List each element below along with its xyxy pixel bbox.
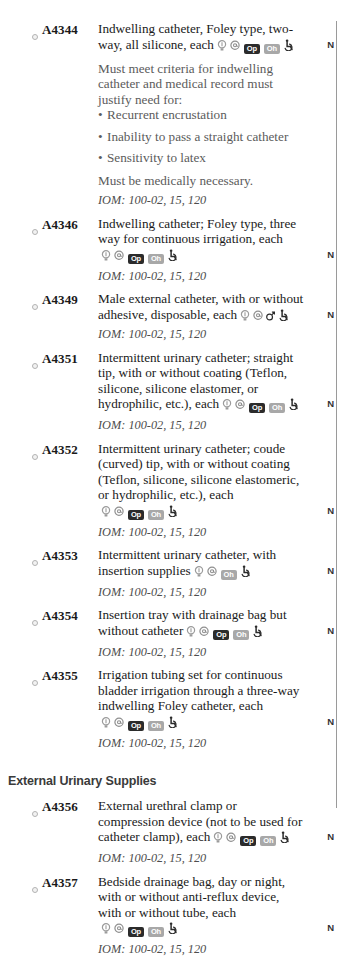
iom-reference[interactable]: IOM: 100-02, 15, 120	[98, 418, 304, 434]
code-description: Male external catheter, with or without …	[98, 291, 304, 322]
code-entry-header: A4346Indwelling catheter; Foley type, th…	[28, 216, 336, 285]
code-note: Must be medically necessary.	[98, 173, 304, 189]
hcpcs-code[interactable]: A4349	[42, 291, 98, 308]
at-sign-icon	[199, 626, 209, 637]
code-description-text: Indwelling catheter; Foley type, three w…	[98, 216, 296, 247]
at-sign-icon	[230, 40, 240, 51]
code-entry[interactable]: A4352Intermittent urinary catheter; coud…	[0, 441, 336, 541]
bulb-icon	[101, 250, 111, 261]
code-description: Bedside drainage bag, day or night, with…	[98, 874, 304, 938]
code-description: Irrigation tubing set for continuous bla…	[98, 667, 304, 731]
wheelchair-accessibility-icon	[252, 625, 263, 637]
code-entry[interactable]: A4353Intermittent urinary catheter, with…	[0, 547, 336, 600]
code-entry[interactable]: A4349Male external catheter, with or wit…	[0, 291, 336, 343]
op-badge-icon: Op	[128, 927, 144, 937]
code-entry-header: A4352Intermittent urinary catheter; coud…	[28, 441, 336, 541]
code-entry-header: A4355Irrigation tubing set for continuou…	[28, 667, 336, 751]
code-entry-body: Indwelling catheter, Foley type, two-way…	[98, 21, 336, 209]
coverage-icon-group: OpOh	[219, 396, 299, 411]
coverage-icon-group: Oh	[191, 563, 251, 578]
code-entry-body: External urethral clamp or compression d…	[98, 798, 336, 867]
code-description: Indwelling catheter, Foley type, two-way…	[98, 21, 304, 54]
code-entry[interactable]: A4344Indwelling catheter, Foley type, tw…	[0, 21, 336, 209]
code-description: Intermittent urinary catheter; straight …	[98, 350, 304, 414]
oh-badge-icon: Oh	[148, 510, 164, 520]
entry-marker-icon	[28, 667, 42, 690]
bulb-icon	[186, 626, 196, 637]
code-description: Intermittent urinary catheter; coude (cu…	[98, 441, 304, 520]
iom-reference[interactable]: IOM: 100-02, 15, 120	[98, 193, 304, 209]
entry-marker-icon	[28, 21, 42, 44]
hcpcs-code[interactable]: A4357	[42, 874, 98, 891]
op-badge-icon: Op	[240, 836, 256, 846]
code-entry[interactable]: A4354Insertion tray with drainage bag bu…	[0, 607, 336, 660]
iom-reference[interactable]: IOM: 100-02, 15, 120	[98, 736, 304, 752]
wheelchair-accessibility-icon	[240, 565, 251, 577]
wheelchair-accessibility-icon	[279, 831, 290, 843]
op-badge-icon: Op	[244, 44, 260, 54]
at-sign-icon	[114, 506, 124, 517]
iom-reference[interactable]: IOM: 100-02, 15, 120	[98, 942, 304, 958]
entry-marker-icon	[28, 874, 42, 897]
iom-reference[interactable]: IOM: 100-02, 15, 120	[98, 327, 304, 343]
hcpcs-code[interactable]: A4344	[42, 21, 98, 38]
criteria-list-item: Inability to pass a straight catheter	[98, 129, 304, 145]
hcpcs-code[interactable]: A4346	[42, 216, 98, 233]
iom-reference[interactable]: IOM: 100-02, 15, 120	[98, 645, 304, 661]
bulb-icon	[213, 832, 223, 843]
code-description-text: Bedside drainage bag, day or night, with…	[98, 874, 285, 920]
hcpcs-code[interactable]: A4354	[42, 607, 98, 624]
code-entry-body: Intermittent urinary catheter, with inse…	[98, 547, 336, 600]
op-badge-icon: Op	[128, 510, 144, 520]
iom-reference[interactable]: IOM: 100-02, 15, 120	[98, 851, 304, 867]
code-entry-body: Indwelling catheter; Foley type, three w…	[98, 216, 336, 285]
entry-marker-icon	[28, 350, 42, 373]
code-entry-body: Insertion tray with drainage bag but wit…	[98, 607, 336, 660]
wheelchair-accessibility-icon	[278, 309, 289, 321]
coverage-flag-letter: N	[327, 714, 334, 730]
entry-marker-icon	[28, 607, 42, 630]
wheelchair-accessibility-icon	[167, 922, 178, 934]
hcpcs-code[interactable]: A4356	[42, 798, 98, 815]
at-sign-icon	[235, 399, 245, 410]
coverage-flag-letter: N	[327, 563, 334, 579]
coverage-icon-group: OpOh	[210, 829, 290, 844]
coverage-icon-group: OpOh	[183, 623, 263, 638]
oh-badge-icon: Oh	[148, 721, 164, 731]
hcpcs-code[interactable]: A4351	[42, 350, 98, 367]
coverage-flag-letter: N	[327, 396, 334, 412]
wheelchair-accessibility-icon	[167, 505, 178, 517]
criteria-list-item: Sensitivity to latex	[98, 150, 304, 166]
hcpcs-code-list-page: A4344Indwelling catheter, Foley type, tw…	[0, 0, 336, 808]
coverage-flag-letter: N	[327, 623, 334, 639]
coverage-icon-group: OpOh	[98, 247, 178, 262]
wheelchair-accessibility-icon	[283, 39, 294, 51]
iom-reference[interactable]: IOM: 100-02, 15, 120	[98, 585, 304, 601]
bulb-icon	[194, 566, 204, 577]
code-description-text: Intermittent urinary catheter; coude (cu…	[98, 441, 299, 503]
code-entry[interactable]: A4355Irrigation tubing set for continuou…	[0, 667, 336, 751]
bulb-icon	[240, 310, 250, 321]
code-note: Must meet criteria for indwelling cathet…	[98, 61, 304, 108]
hcpcs-code[interactable]: A4353	[42, 547, 98, 564]
code-description: Intermittent urinary catheter, with inse…	[98, 547, 304, 580]
coverage-icon-group	[237, 307, 289, 322]
code-entry[interactable]: A4357Bedside drainage bag, day or night,…	[0, 874, 336, 958]
criteria-list-item: Recurrent encrustation	[98, 107, 304, 123]
hcpcs-code[interactable]: A4352	[42, 441, 98, 458]
oh-badge-icon: Oh	[264, 44, 280, 54]
bulb-icon	[101, 923, 111, 934]
code-entry[interactable]: A4346Indwelling catheter; Foley type, th…	[0, 216, 336, 285]
code-entry[interactable]: A4351Intermittent urinary catheter; stra…	[0, 350, 336, 434]
code-entry-header: A4357Bedside drainage bag, day or night,…	[28, 874, 336, 958]
oh-badge-icon: Oh	[233, 630, 249, 640]
oh-badge-icon: Oh	[221, 570, 237, 580]
coverage-flag-letter: N	[327, 829, 334, 845]
at-sign-icon	[226, 832, 236, 843]
iom-reference[interactable]: IOM: 100-02, 15, 120	[98, 269, 304, 285]
iom-reference[interactable]: IOM: 100-02, 15, 120	[98, 525, 304, 541]
coverage-flag-letter: N	[327, 920, 334, 936]
at-sign-icon	[207, 566, 217, 577]
code-entry[interactable]: A4356External urethral clamp or compress…	[0, 798, 336, 867]
hcpcs-code[interactable]: A4355	[42, 667, 98, 684]
